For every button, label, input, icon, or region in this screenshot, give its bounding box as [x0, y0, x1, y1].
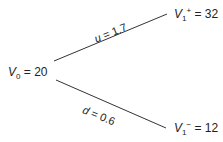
- down-var: V: [174, 121, 182, 135]
- down-value: = 12: [191, 121, 218, 135]
- root-var: V: [8, 65, 16, 79]
- down-sub: 1: [182, 128, 186, 137]
- up-var: V: [174, 7, 182, 21]
- up-node-label: V1+ = 32: [174, 8, 218, 20]
- root-value: = 20: [20, 65, 47, 79]
- up-value: = 32: [191, 7, 218, 21]
- down-node-label: V1− = 12: [174, 122, 218, 134]
- up-sub: 1: [182, 14, 186, 23]
- root-node-label: V0 = 20: [8, 66, 48, 78]
